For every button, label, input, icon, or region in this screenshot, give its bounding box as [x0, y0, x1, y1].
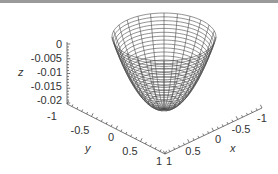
- axis-tick: [101, 120, 102, 122]
- y-tick-label: 0: [108, 131, 114, 143]
- axis-tick: [111, 125, 112, 127]
- axis-tick: [150, 145, 151, 147]
- axis-tick: [251, 111, 252, 113]
- x-tick-label: 0.5: [185, 145, 200, 157]
- axis-tick: [116, 126, 118, 129]
- axis-tick: [236, 116, 238, 119]
- z-axis-label: z: [17, 66, 24, 78]
- axis-tick: [160, 150, 161, 152]
- axis-tick: [256, 108, 257, 110]
- z-tick-label: -0.02: [37, 94, 62, 106]
- axis-tick: [96, 117, 97, 119]
- axis-tick: [217, 127, 218, 129]
- y-axis-label: y: [84, 142, 92, 154]
- paraboloid-3d-plot: 0 -0.005 -0.01 -0.015 -0.02 z -1 -0.5 0 …: [0, 0, 278, 174]
- z-tick-label: -0.005: [31, 52, 62, 64]
- surface-mesh: [112, 13, 216, 111]
- axis-tick: [198, 136, 199, 138]
- axis-tick: [246, 113, 247, 115]
- axis-tick: [82, 110, 83, 112]
- x-tick-label: -0.5: [232, 123, 251, 135]
- axis-tick: [208, 131, 209, 133]
- axis-tick: [179, 145, 180, 147]
- axis-tick: [72, 105, 73, 107]
- axis-tick: [260, 105, 262, 108]
- axis-tick: [121, 130, 122, 132]
- z-tick-label: -0.01: [37, 66, 62, 78]
- x-tick-label: 0: [215, 133, 221, 145]
- axis-tick: [203, 134, 204, 136]
- axis-tick: [222, 124, 223, 126]
- y-tick-label: -0.5: [71, 124, 90, 136]
- x-tick-label: 1: [166, 155, 172, 167]
- axis-tick: [188, 139, 190, 142]
- axis-tick: [145, 142, 146, 144]
- axis-tick: [212, 128, 214, 131]
- axis-tick: [242, 115, 243, 117]
- y-tick-label: -1: [47, 110, 57, 122]
- axis-tick: [131, 135, 132, 137]
- x-tick-label: -1: [257, 112, 267, 124]
- axis-tick: [232, 120, 233, 122]
- x-axis-label: x: [229, 142, 236, 154]
- axis-tick: [87, 112, 88, 114]
- axis-tick: [136, 137, 137, 139]
- z-tick-label: -0.015: [31, 80, 62, 92]
- axis-tick: [193, 138, 194, 140]
- axis-tick: [227, 122, 228, 124]
- axis-tick: [155, 147, 156, 149]
- y-tick-label: 1: [156, 155, 162, 167]
- axis-tick: [92, 113, 94, 116]
- axis-tick: [106, 122, 107, 124]
- axis-tick: [169, 150, 170, 152]
- axis-tick: [174, 147, 175, 149]
- z-axis: [67, 42, 70, 104]
- axis-tick: [77, 107, 78, 109]
- z-tick-label: 0: [56, 38, 62, 50]
- axis-tick: [141, 138, 143, 141]
- axis-tick: [183, 143, 184, 145]
- axis-tick: [126, 132, 127, 134]
- y-tick-label: 0.5: [122, 145, 137, 157]
